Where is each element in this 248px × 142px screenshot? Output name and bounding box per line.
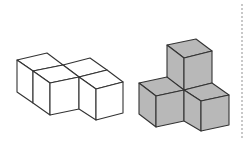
outline-cube-figure (0, 0, 124, 142)
shaded-cubes-drawing (124, 0, 234, 142)
outline-cubes-drawing (0, 0, 124, 142)
shaded-cube-figure (124, 0, 234, 142)
dotted-divider (241, 4, 243, 138)
